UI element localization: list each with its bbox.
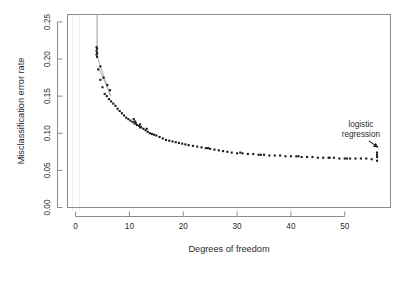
annotation-line-2: regression: [342, 130, 381, 139]
y-axis-tick-label: 0.20: [43, 51, 52, 67]
data-point: [106, 95, 108, 97]
data-point: [329, 157, 331, 159]
data-point: [226, 151, 228, 153]
data-point: [155, 134, 157, 136]
data-point: [260, 154, 262, 156]
data-point: [171, 140, 173, 142]
data-point: [338, 157, 340, 159]
data-point: [101, 86, 103, 88]
y-axis-title: Misclassification error rate: [16, 58, 26, 165]
data-point: [133, 118, 135, 120]
data-point: [159, 136, 161, 138]
data-point: [135, 122, 137, 124]
data-point: [117, 108, 119, 110]
data-point: [168, 140, 170, 142]
data-point: [376, 152, 378, 154]
data-point: [301, 156, 303, 158]
data-point: [106, 84, 108, 86]
data-point: [263, 154, 265, 156]
data-point: [317, 157, 319, 159]
data-point: [162, 137, 164, 139]
data-point: [354, 157, 356, 159]
data-point: [360, 157, 362, 159]
plot-background: [0, 0, 409, 281]
data-point: [119, 110, 121, 112]
data-point: [222, 150, 224, 152]
data-point: [149, 132, 151, 134]
data-point: [146, 128, 148, 130]
data-point: [112, 103, 114, 105]
data-point: [142, 128, 144, 130]
data-point: [279, 154, 281, 156]
data-point: [213, 149, 215, 151]
data-point: [153, 134, 155, 136]
data-point: [258, 154, 260, 156]
data-point: [127, 118, 129, 120]
data-point: [207, 147, 209, 149]
data-point: [252, 153, 254, 155]
data-point: [136, 124, 138, 126]
data-point: [200, 146, 202, 148]
y-axis-tick-label: 0.00: [43, 199, 52, 215]
data-point: [125, 117, 127, 119]
data-point: [376, 156, 378, 158]
data-point: [295, 155, 297, 157]
data-point: [376, 160, 378, 162]
data-point: [349, 157, 351, 159]
x-axis-tick-label: 10: [125, 222, 135, 231]
data-point: [247, 153, 249, 155]
data-point: [376, 154, 378, 156]
data-point: [231, 152, 233, 154]
data-point: [236, 152, 238, 154]
x-axis-tick-label: 30: [233, 222, 243, 231]
data-point: [311, 156, 313, 158]
chart-figure: 0.000.050.100.150.200.25Misclassificatio…: [0, 0, 409, 281]
y-axis-tick-label: 0.05: [43, 162, 52, 178]
data-point: [123, 114, 125, 116]
data-point: [103, 77, 105, 79]
data-point: [346, 157, 348, 159]
data-point: [129, 120, 131, 122]
data-point: [196, 146, 198, 148]
data-point: [96, 50, 98, 52]
data-point: [306, 156, 308, 158]
y-axis-tick-label: 0.10: [43, 125, 52, 141]
data-point: [284, 155, 286, 157]
data-point: [178, 142, 180, 144]
data-point: [151, 133, 153, 135]
data-point: [121, 112, 123, 114]
data-point: [322, 157, 324, 159]
data-point: [218, 149, 220, 151]
data-point: [333, 157, 335, 159]
data-point: [104, 93, 106, 95]
data-point: [209, 148, 211, 150]
data-point: [188, 144, 190, 146]
data-point: [147, 131, 149, 133]
data-point: [109, 89, 111, 91]
x-axis-tick-label: 40: [286, 222, 296, 231]
data-point: [290, 155, 292, 157]
data-point: [181, 143, 183, 145]
x-axis-tick-label: 50: [340, 222, 350, 231]
data-point: [371, 158, 373, 160]
y-axis-tick-label: 0.25: [43, 14, 52, 30]
data-point: [365, 157, 367, 159]
data-point: [184, 143, 186, 145]
data-point: [268, 154, 270, 156]
data-point: [96, 46, 98, 48]
annotation-line-1: logistic: [348, 120, 373, 129]
data-point: [139, 126, 141, 128]
data-point: [241, 152, 243, 154]
data-point: [274, 154, 276, 156]
data-point: [239, 152, 241, 154]
data-point: [114, 105, 116, 107]
data-point: [97, 68, 99, 70]
data-point: [205, 147, 207, 149]
data-point: [99, 65, 101, 67]
data-point: [110, 100, 112, 102]
y-axis-tick-label: 0.15: [43, 88, 52, 104]
x-axis-tick-label: 0: [73, 222, 78, 231]
x-axis-tick-label: 20: [179, 222, 189, 231]
data-point: [139, 123, 141, 125]
data-point: [165, 139, 167, 141]
